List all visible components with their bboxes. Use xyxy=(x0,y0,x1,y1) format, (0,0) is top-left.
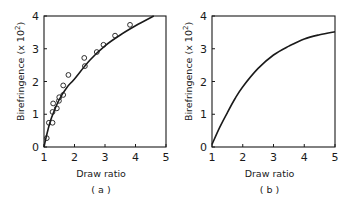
x-axis-label: Draw ratio xyxy=(76,168,126,179)
chart-panel-b: 1234501234Draw ratio( b )Birefringence (… xyxy=(182,10,339,195)
plot-frame xyxy=(44,16,166,147)
x-tick-label: 3 xyxy=(270,151,277,164)
series-line-calculated xyxy=(212,32,335,145)
y-tick-label: 3 xyxy=(32,43,39,56)
data-point xyxy=(128,22,133,27)
y-axis-label: Birefringence (x 102) xyxy=(14,22,26,121)
panel-label: ( b ) xyxy=(260,184,279,195)
x-tick-label: 4 xyxy=(301,151,308,164)
x-tick-label: 1 xyxy=(209,151,216,164)
x-tick-label: 5 xyxy=(163,151,170,164)
x-axis-label: Draw ratio xyxy=(245,168,295,179)
y-axis-label: Birefringence (x 102) xyxy=(182,22,194,121)
x-tick-label: 1 xyxy=(41,151,48,164)
x-tick-label: 3 xyxy=(102,151,109,164)
y-tick-label: 4 xyxy=(200,10,207,23)
data-point xyxy=(82,56,87,61)
series-line-fit xyxy=(44,16,154,147)
data-point xyxy=(61,83,66,88)
y-tick-label: 3 xyxy=(200,43,207,56)
y-tick-label: 2 xyxy=(32,76,39,89)
panel-label: ( a ) xyxy=(91,184,110,195)
y-tick-label: 0 xyxy=(200,141,207,154)
y-tick-label: 4 xyxy=(32,10,39,23)
x-tick-label: 2 xyxy=(239,151,246,164)
x-tick-label: 4 xyxy=(132,151,139,164)
y-tick-label: 1 xyxy=(32,108,39,121)
y-tick-label: 1 xyxy=(200,108,207,121)
x-tick-label: 5 xyxy=(332,151,339,164)
data-point xyxy=(51,101,56,106)
y-tick-label: 2 xyxy=(200,76,207,89)
y-tick-label: 0 xyxy=(32,141,39,154)
data-point xyxy=(66,73,71,78)
figure: 1234501234Draw ratio( a )Birefringence (… xyxy=(0,0,351,203)
x-tick-label: 2 xyxy=(71,151,78,164)
chart-panel-a: 1234501234Draw ratio( a )Birefringence (… xyxy=(14,10,170,195)
